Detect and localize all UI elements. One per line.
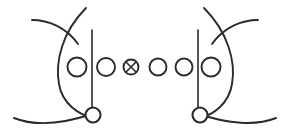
bead [97, 58, 115, 76]
bead-circle [150, 59, 167, 76]
left-terminal-node [86, 108, 101, 123]
bead-circle [97, 58, 115, 76]
bead [68, 58, 87, 77]
figure-root [0, 0, 288, 137]
bead-circle [176, 59, 193, 76]
right-upper-whisker [212, 20, 258, 44]
bead-circle [68, 58, 87, 77]
left-lower-whisker [14, 114, 92, 123]
x-cross-icon [124, 60, 139, 75]
left-strand-group [14, 8, 101, 123]
right-lower-whisker [199, 114, 276, 123]
bead-circle [202, 58, 221, 77]
bead [202, 58, 221, 77]
right-terminal-node [193, 108, 208, 123]
bead [150, 59, 167, 76]
left-upper-whisker [32, 20, 78, 44]
braid-diagram-canvas [0, 0, 288, 137]
bead [176, 59, 193, 76]
